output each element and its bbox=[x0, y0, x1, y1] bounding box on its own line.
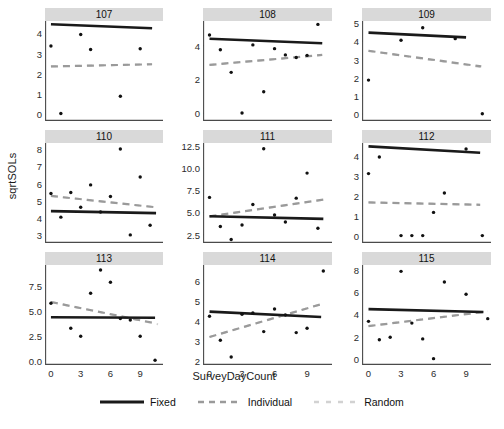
data-point bbox=[262, 330, 265, 333]
data-point bbox=[109, 195, 112, 198]
y-tick-label: 5 bbox=[37, 195, 42, 206]
data-point bbox=[109, 281, 112, 284]
legend-label: Fixed bbox=[150, 396, 176, 408]
data-point bbox=[367, 78, 370, 81]
legend-item-individual[interactable]: Individual bbox=[198, 396, 292, 408]
trend-line-individual bbox=[51, 64, 152, 66]
panel-canvas bbox=[45, 265, 163, 365]
panel-canvas bbox=[362, 21, 491, 121]
y-tick-label: 7 bbox=[37, 161, 42, 172]
data-point bbox=[89, 183, 92, 186]
data-point bbox=[399, 270, 402, 273]
data-point bbox=[69, 191, 72, 194]
data-point bbox=[240, 111, 243, 114]
trend-line-fixed bbox=[369, 146, 481, 152]
y-tick-label: 3 bbox=[354, 54, 359, 65]
facet-panel: 10701234 bbox=[45, 8, 163, 121]
data-point bbox=[251, 311, 254, 314]
data-point bbox=[305, 171, 308, 174]
data-point bbox=[59, 215, 62, 218]
legend-label: Random bbox=[364, 396, 404, 408]
data-point bbox=[464, 293, 467, 296]
y-tick-label: 0.0 bbox=[29, 355, 42, 366]
panel-canvas bbox=[203, 21, 332, 121]
data-point bbox=[240, 223, 243, 226]
trend-line-fixed bbox=[369, 33, 467, 38]
data-point bbox=[481, 234, 484, 237]
data-point bbox=[138, 335, 141, 338]
axis-spine bbox=[46, 265, 163, 364]
data-point bbox=[316, 227, 319, 230]
y-tick-label: 2 bbox=[37, 68, 42, 79]
y-tick-label: 4 bbox=[354, 36, 359, 47]
y-tick-label: 2 bbox=[195, 355, 200, 366]
data-point bbox=[69, 327, 72, 330]
data-point bbox=[273, 213, 276, 216]
data-point bbox=[148, 224, 151, 227]
facet-panel: 109012345 bbox=[362, 8, 491, 121]
data-point bbox=[208, 196, 211, 199]
y-tick-label: 5 bbox=[195, 295, 200, 306]
axis-spine bbox=[204, 21, 332, 120]
data-point bbox=[229, 71, 232, 74]
plot-area: 024680369 bbox=[362, 265, 491, 365]
facet-panel: 11201234 bbox=[362, 130, 491, 243]
facet-strip-label: 115 bbox=[362, 252, 491, 265]
data-point bbox=[99, 210, 102, 213]
trend-line-individual bbox=[51, 196, 156, 207]
data-point bbox=[367, 320, 370, 323]
y-tick-label: 2.5 bbox=[187, 229, 200, 240]
facet-strip-label: 107 bbox=[45, 8, 163, 21]
y-tick-label: 6 bbox=[37, 178, 42, 189]
trend-line-fixed bbox=[210, 312, 322, 317]
data-point bbox=[421, 26, 424, 29]
chart-root: sqrtSOLs 1070123410802410901234511034567… bbox=[0, 0, 504, 429]
facet-panel: 114234560369 bbox=[203, 252, 332, 365]
data-point bbox=[464, 147, 467, 150]
data-point bbox=[262, 147, 265, 150]
facet-panel: 110345678 bbox=[45, 130, 163, 243]
data-point bbox=[79, 206, 82, 209]
y-tick-label: 3 bbox=[354, 171, 359, 182]
data-point bbox=[129, 318, 132, 321]
y-tick-label: 8 bbox=[354, 265, 359, 276]
trend-line-individual bbox=[369, 202, 481, 204]
data-point bbox=[49, 302, 52, 305]
plot-area: 024 bbox=[203, 21, 332, 121]
legend-item-fixed[interactable]: Fixed bbox=[100, 396, 176, 408]
legend-item-random[interactable]: Random bbox=[314, 396, 404, 408]
legend-label: Individual bbox=[248, 396, 292, 408]
legend-key-random bbox=[314, 397, 358, 407]
panel-canvas bbox=[45, 21, 163, 121]
data-point bbox=[59, 112, 62, 115]
data-point bbox=[284, 313, 287, 316]
facet-strip-label: 110 bbox=[45, 130, 163, 143]
data-point bbox=[378, 155, 381, 158]
data-point bbox=[119, 317, 122, 320]
legend-key-fixed bbox=[100, 397, 144, 407]
chart-legend: FixedIndividualRandom bbox=[0, 396, 504, 408]
plot-area: 234560369 bbox=[203, 265, 332, 365]
facet-strip-label: 114 bbox=[203, 252, 332, 265]
y-tick-label: 3 bbox=[37, 48, 42, 59]
facet-strip-label: 111 bbox=[203, 130, 332, 143]
data-point bbox=[421, 337, 424, 340]
trend-line-fixed bbox=[51, 211, 156, 213]
panel-canvas bbox=[203, 265, 332, 365]
y-tick-label: 1 bbox=[37, 88, 42, 99]
data-point bbox=[49, 44, 52, 47]
facet-strip-label: 112 bbox=[362, 130, 491, 143]
data-point bbox=[388, 336, 391, 339]
data-point bbox=[295, 331, 298, 334]
data-point bbox=[367, 172, 370, 175]
data-point bbox=[229, 238, 232, 241]
trend-line-fixed bbox=[210, 216, 324, 219]
data-point bbox=[262, 90, 265, 93]
y-tick-label: 2 bbox=[354, 331, 359, 342]
data-point bbox=[295, 56, 298, 59]
data-point bbox=[119, 95, 122, 98]
data-point bbox=[399, 39, 402, 42]
data-point bbox=[432, 211, 435, 214]
y-tick-label: 10.0 bbox=[182, 163, 201, 174]
trend-line-individual bbox=[51, 302, 155, 323]
